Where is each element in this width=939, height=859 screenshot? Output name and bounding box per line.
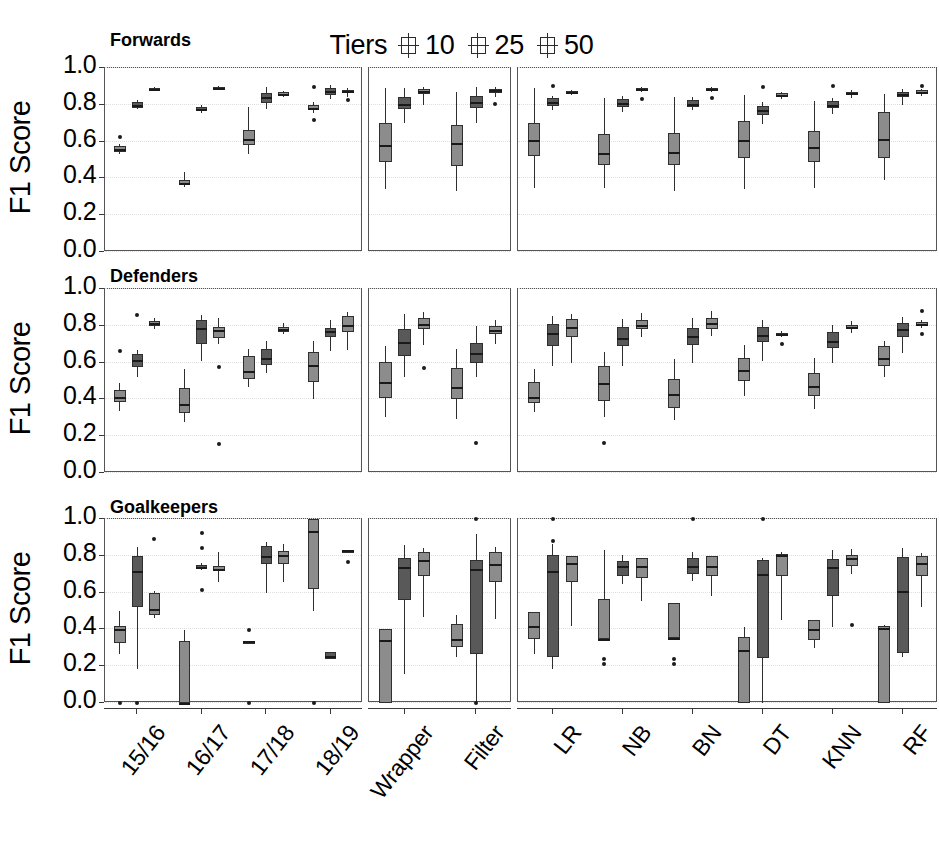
boxplot-Filter-tier10 xyxy=(451,68,464,252)
boxplot-DT-tier10 xyxy=(738,289,750,473)
median-line xyxy=(776,555,788,557)
boxplot-Wrapper-tier50 xyxy=(418,289,431,473)
whisker-upper xyxy=(283,544,284,551)
whisker-lower xyxy=(762,658,763,703)
whisker-lower xyxy=(552,106,553,111)
legend-entry-10[interactable]: 10 xyxy=(401,30,454,61)
boxplot-16-17-tier25 xyxy=(196,68,207,252)
median-line xyxy=(451,387,464,389)
outlier-point xyxy=(761,517,765,521)
y-tick-label: 0.6 xyxy=(18,575,96,604)
legend-entry-50[interactable]: 50 xyxy=(540,30,593,61)
x-tick-mark xyxy=(475,708,476,714)
whisker-lower xyxy=(119,152,120,155)
gridline xyxy=(518,251,936,252)
boxplot-15-16-tier50 xyxy=(149,519,160,703)
legend-key-icon xyxy=(401,37,416,54)
whisker-lower xyxy=(692,574,693,580)
boxplot-16-17-tier50 xyxy=(213,519,224,703)
boxplot-LR-tier50 xyxy=(566,68,578,252)
boxplot-17-18-tier10 xyxy=(243,289,254,473)
median-line xyxy=(827,341,839,343)
median-line xyxy=(325,331,336,333)
boxplot-Wrapper-tier10 xyxy=(379,519,392,703)
median-line xyxy=(196,567,207,569)
outlier-point xyxy=(118,701,122,705)
y-tick-label: 0.6 xyxy=(18,124,96,153)
boxplot-NB-tier10 xyxy=(598,289,610,473)
gridline xyxy=(105,555,361,556)
whisker-lower xyxy=(404,356,405,377)
whisker-upper xyxy=(744,95,745,122)
box-iqr xyxy=(528,382,540,403)
x-tick-label: 16/17 xyxy=(180,720,236,781)
boxplot-Wrapper-tier25 xyxy=(398,519,411,703)
whisker-upper xyxy=(692,318,693,327)
median-line xyxy=(470,102,483,104)
whisker-upper xyxy=(184,630,185,641)
whisker-upper xyxy=(184,369,185,388)
median-line xyxy=(566,92,578,94)
median-line xyxy=(916,324,928,326)
facet-panel-defenders-season xyxy=(104,288,362,472)
boxplot-NB-tier25 xyxy=(617,68,629,252)
x-tick-mark xyxy=(201,708,202,714)
boxplot-NB-tier50 xyxy=(636,68,648,252)
median-line xyxy=(179,703,190,705)
boxplot-Wrapper-tier50 xyxy=(418,519,431,703)
boxplot-RF-tier10 xyxy=(878,68,890,252)
y-tick-label: 0.8 xyxy=(18,538,96,567)
whisker-upper xyxy=(552,316,553,324)
boxplot-KNN-tier25 xyxy=(827,519,839,703)
x-tick-label: LR xyxy=(548,720,587,759)
whisker-lower xyxy=(552,657,553,669)
x-tick-mark xyxy=(902,708,903,714)
whisker-lower xyxy=(385,162,386,189)
boxplot-Filter-tier10 xyxy=(451,519,464,703)
whisker-lower xyxy=(154,615,155,619)
whisker-upper xyxy=(248,107,249,130)
median-line xyxy=(470,353,483,355)
median-line xyxy=(617,338,629,340)
median-line xyxy=(418,324,431,326)
box-iqr xyxy=(451,624,464,647)
boxplot-15-16-tier25 xyxy=(132,519,143,703)
whisker-upper xyxy=(456,92,457,125)
boxplot-17-18-tier25 xyxy=(261,289,272,473)
whisker-lower xyxy=(851,95,852,98)
median-line xyxy=(598,383,610,385)
whisker-lower xyxy=(622,107,623,113)
whisker-lower xyxy=(534,639,535,655)
median-line xyxy=(261,358,272,360)
boxplot-NB-tier50 xyxy=(636,519,648,703)
outlier-point xyxy=(920,309,924,313)
legend-entry-25[interactable]: 25 xyxy=(471,30,524,61)
whisker-upper xyxy=(902,548,903,556)
boxplot-LR-tier50 xyxy=(566,289,578,473)
median-line xyxy=(668,638,680,640)
boxplot-15-16-tier25 xyxy=(132,289,143,473)
gridline xyxy=(105,398,361,399)
x-tick-mark xyxy=(622,708,623,714)
box-iqr xyxy=(878,626,890,703)
whisker-upper xyxy=(604,550,605,599)
boxplot-16-17-tier25 xyxy=(196,289,207,473)
median-line xyxy=(827,105,839,107)
gridline xyxy=(105,665,361,666)
whisker-lower xyxy=(423,576,424,616)
median-line xyxy=(878,358,890,360)
gridline xyxy=(518,325,936,326)
x-tick-mark xyxy=(330,708,331,714)
whisker-lower xyxy=(814,162,815,188)
boxplot-15-16-tier10 xyxy=(114,68,125,252)
outlier-point xyxy=(422,366,426,370)
median-line xyxy=(149,89,160,91)
whisker-lower xyxy=(456,166,457,192)
x-tick-label: 15/16 xyxy=(116,720,172,781)
median-line xyxy=(617,103,629,105)
facet-panel-defenders-selection xyxy=(368,288,511,472)
whisker-lower xyxy=(423,329,424,345)
box-iqr xyxy=(668,603,680,638)
gridline xyxy=(518,435,936,436)
legend-label: 10 xyxy=(425,30,454,61)
